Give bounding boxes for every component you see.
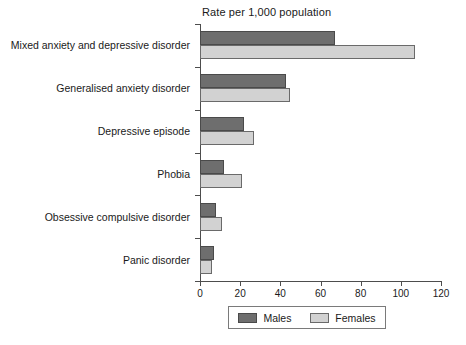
bar-males	[200, 203, 216, 217]
category-label: Depressive episode	[98, 125, 190, 137]
y-axis-tick	[195, 24, 200, 25]
chart-legend: Males Females	[228, 306, 386, 329]
x-axis-tick	[240, 281, 241, 286]
y-axis-tick	[195, 281, 200, 282]
legend-entry-females: Females	[310, 312, 375, 324]
x-axis-tick	[280, 281, 281, 286]
bar-males	[200, 117, 244, 131]
category-axis-line	[200, 24, 201, 282]
bar-males	[200, 160, 224, 174]
y-axis-tick	[195, 110, 200, 111]
bar-females	[200, 45, 415, 59]
x-axis-tick-label: 120	[426, 288, 456, 300]
legend-entry-males: Males	[238, 312, 291, 324]
category-label: Obsessive compulsive disorder	[45, 211, 190, 223]
bar-females	[200, 88, 290, 102]
x-axis-tick-label: 20	[225, 288, 255, 300]
x-axis-tick-label: 0	[185, 288, 215, 300]
category-label: Panic disorder	[123, 254, 190, 266]
bar-females	[200, 174, 242, 188]
category-label: Phobia	[157, 168, 190, 180]
legend-swatch-males-icon	[238, 313, 257, 323]
x-axis-tick-label: 40	[265, 288, 295, 300]
bar-females	[200, 260, 212, 274]
y-axis-tick	[195, 195, 200, 196]
x-axis-tick-label: 80	[346, 288, 376, 300]
y-axis-tick	[195, 67, 200, 68]
chart-title: Rate per 1,000 population	[202, 6, 331, 19]
bar-males	[200, 246, 214, 260]
x-axis-tick	[441, 281, 442, 286]
bar-males	[200, 74, 286, 88]
legend-label-males: Males	[263, 312, 291, 324]
bar-males	[200, 31, 335, 45]
legend-swatch-females-icon	[310, 313, 329, 323]
x-axis-tick-label: 60	[306, 288, 336, 300]
bar-females	[200, 217, 222, 231]
x-axis-tick	[361, 281, 362, 286]
x-axis-tick-label: 100	[386, 288, 416, 300]
y-axis-tick	[195, 153, 200, 154]
y-axis-tick	[195, 238, 200, 239]
x-axis-tick	[321, 281, 322, 286]
bar-females	[200, 131, 254, 145]
category-label: Generalised anxiety disorder	[56, 82, 190, 94]
chart-screenshot: Rate per 1,000 population 02040608010012…	[0, 0, 466, 345]
x-axis-tick	[200, 281, 201, 286]
category-label: Mixed anxiety and depressive disorder	[11, 39, 190, 51]
x-axis-tick	[401, 281, 402, 286]
legend-label-females: Females	[335, 312, 375, 324]
